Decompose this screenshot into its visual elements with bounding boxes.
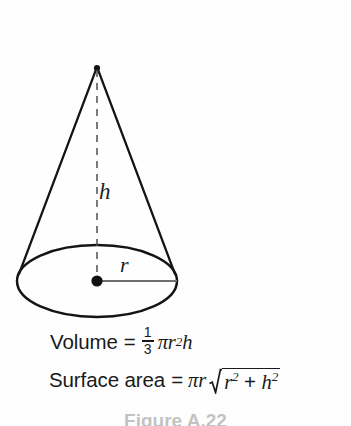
radicand-first-exponent: 2 xyxy=(232,369,238,384)
radicand-second-exponent: 2 xyxy=(272,369,278,384)
height-term-volume: h xyxy=(182,331,192,354)
fraction-numerator: 1 xyxy=(142,325,154,340)
one-third-fraction: 1 3 xyxy=(142,325,154,357)
surface-area-equals-sign: = xyxy=(171,368,183,392)
figure-caption-text: Figure A.22 xyxy=(0,412,351,426)
surface-area-formula: Surface area = π r r2 + h2 xyxy=(0,362,351,398)
radicand-plus-sign: + xyxy=(244,370,256,393)
fraction-denominator: 3 xyxy=(142,342,154,357)
volume-formula-name: Volume xyxy=(50,330,118,354)
volume-equals-sign: = xyxy=(124,330,136,354)
volume-formula: Volume = 1 3 π r 2 h xyxy=(0,322,351,362)
radicand-second-term: h xyxy=(262,371,272,393)
cone-right-slant-line xyxy=(97,67,175,274)
radicand-first-term: r xyxy=(224,371,232,393)
cone-diagram xyxy=(0,0,351,330)
formula-block: Volume = 1 3 π r 2 h Surface area = π r xyxy=(0,322,351,398)
pi-symbol-volume: π xyxy=(158,331,168,354)
figure-caption: Figure A.22 xyxy=(0,412,351,426)
cone-left-slant-line xyxy=(19,67,97,274)
radius-term-surface: r xyxy=(198,369,206,392)
square-root-expression: r2 + h2 xyxy=(209,368,280,395)
radius-variable-label: r xyxy=(120,254,129,276)
radical-sign-icon xyxy=(209,368,222,395)
radius-term-volume: r xyxy=(168,331,176,354)
cone-base-center-dot xyxy=(91,275,102,286)
radicand: r2 + h2 xyxy=(222,368,280,395)
pi-symbol-surface: π xyxy=(188,369,198,392)
surface-area-formula-name: Surface area xyxy=(49,368,165,392)
cone-formula-figure-page: h r Volume = 1 3 π r 2 h Surface area = … xyxy=(0,0,351,426)
height-variable-label: h xyxy=(99,180,111,203)
